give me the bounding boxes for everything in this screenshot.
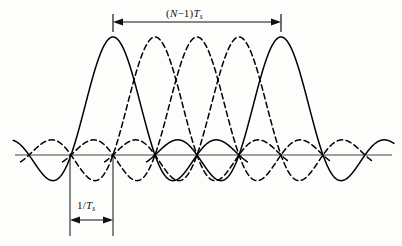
sinc-curve-subcarrier-1 xyxy=(13,37,247,181)
sinc-curve-subcarrier-4 xyxy=(105,37,374,181)
span-top-minus: −1 xyxy=(177,7,189,19)
top-dimension-arrowhead-left xyxy=(113,19,123,26)
sinc-curve-subcarrier-3 xyxy=(63,37,332,181)
spectrum-plot xyxy=(0,0,402,246)
span-label-subcarrier-spacing: 1/Ts xyxy=(77,199,95,213)
sinc-curve-subcarrier-5 xyxy=(147,37,394,181)
bottom-dimension-arrowhead-right xyxy=(103,217,113,224)
span-top-subscript: s xyxy=(200,12,203,21)
bottom-dimension-arrowhead-left xyxy=(70,217,80,224)
top-dimension-arrowhead-right xyxy=(271,19,281,26)
span-bottom-subscript: s xyxy=(92,204,95,213)
sinc-curve-subcarrier-2 xyxy=(21,37,290,181)
span-label-total-bandwidth: (N−1)Ts xyxy=(166,7,203,21)
ofdm-spectrum-figure: (N−1)Ts 1/Ts xyxy=(0,0,402,246)
